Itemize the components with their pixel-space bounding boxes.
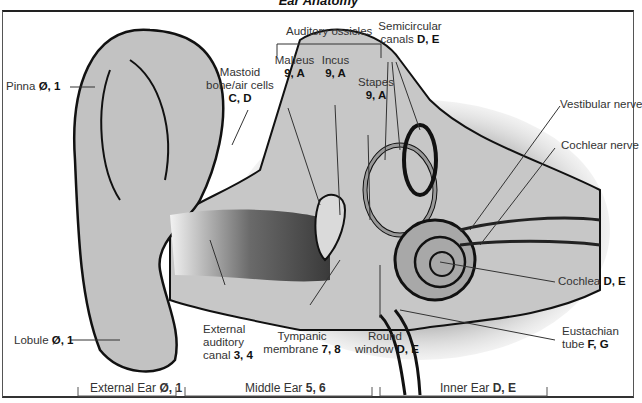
- label-lobule: Lobule Ø, 1: [14, 334, 73, 347]
- label-mastoid: Mastoid bone/air cells C, D: [200, 66, 280, 105]
- label-semicircular-canals: Semicircular canals D, E: [370, 20, 450, 46]
- section-inner-ear: Inner Ear D, E: [440, 381, 516, 395]
- label-auditory-ossicles: Auditory ossicles: [286, 25, 372, 38]
- label-stapes: Stapes9, A: [355, 76, 397, 102]
- label-vestibular-nerve: Vestibular nerve: [560, 98, 642, 111]
- label-pinna: Pinna Ø, 1: [6, 80, 60, 93]
- label-external-auditory-canal: External auditory canal 3, 4: [203, 323, 253, 362]
- ear-canal: [170, 210, 330, 282]
- cochlea-shape: [395, 220, 475, 300]
- label-eustachian-tube: Eustachian tube F, G: [562, 325, 619, 351]
- label-tympanic-membrane: Tympanic membrane 7, 8: [262, 330, 342, 356]
- label-malleus: Malleus9, A: [272, 54, 317, 80]
- label-cochlear-nerve: Cochlear nerve: [561, 139, 639, 152]
- label-incus: Incus9, A: [318, 54, 353, 80]
- label-cochlea: Cochlea D, E: [558, 275, 626, 288]
- label-round-window: Round window D, E: [355, 330, 415, 356]
- section-external-ear: External Ear Ø, 1: [90, 381, 182, 395]
- section-middle-ear: Middle Ear 5, 6: [245, 381, 326, 395]
